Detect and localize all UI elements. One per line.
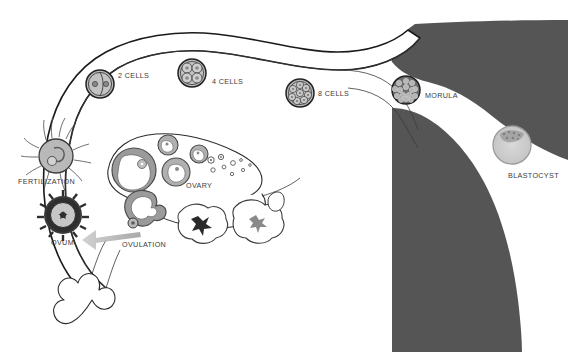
label-ovary: OVARY	[186, 181, 212, 190]
embryo-2-cells	[86, 70, 114, 98]
embryo-4-cells	[178, 59, 206, 87]
label-blastocyst: BLASTOCYST	[508, 171, 559, 180]
label-fertilization: FERTILIZATION	[18, 177, 75, 186]
reproductive-cycle-diagram: FERTILIZATION OVUM OVULATION OVARY 2 CEL…	[0, 0, 582, 355]
released-ovum	[128, 218, 138, 228]
embryo-morula	[392, 76, 420, 104]
label-ovum: OVUM	[51, 238, 74, 247]
uterus	[391, 20, 568, 352]
embryo-blastocyst	[493, 126, 531, 164]
embryo-8-cells	[286, 79, 314, 107]
diagram-canvas: FERTILIZATION OVUM OVULATION OVARY 2 CEL…	[0, 0, 582, 355]
label-morula: MORULA	[425, 91, 458, 100]
label-2-cells: 2 CELLS	[118, 71, 149, 80]
label-4-cells: 4 CELLS	[212, 77, 243, 86]
label-ovulation: OVULATION	[122, 240, 166, 249]
label-8-cells: 8 CELLS	[318, 89, 349, 98]
antral-follicle	[112, 148, 156, 192]
